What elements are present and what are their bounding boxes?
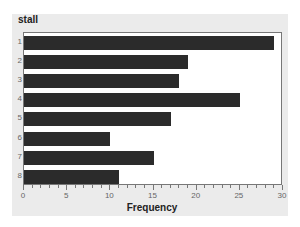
bar-1 [24,36,274,50]
bar-6 [24,132,110,146]
x-tick [204,185,205,188]
x-tick [256,185,257,188]
x-tick [170,185,171,188]
x-tick [135,185,136,188]
x-tick [109,185,110,190]
x-tick-label: 5 [64,191,68,200]
y-tick-label: 7 [14,152,22,161]
bar-7 [24,151,154,165]
x-tick [213,185,214,188]
x-tick-label: 30 [278,191,287,200]
x-tick-label: 20 [191,191,200,200]
x-tick [273,185,274,188]
x-tick-label: 25 [234,191,243,200]
x-tick-label: 10 [105,191,114,200]
bar-3 [24,74,179,88]
plot-area [23,32,282,185]
x-tick [282,185,283,190]
x-tick [161,185,162,188]
x-tick [239,185,240,190]
chart-title: stall [18,14,38,25]
y-tick-label: 5 [14,113,22,122]
x-tick [187,185,188,188]
bar-5 [24,112,171,126]
x-tick [23,185,24,190]
x-tick-label: 15 [148,191,157,200]
x-tick [75,185,76,188]
x-tick [127,185,128,188]
x-tick [40,185,41,188]
x-tick [265,185,266,188]
x-tick [144,185,145,188]
x-tick [58,185,59,188]
x-tick [92,185,93,188]
y-tick-label: 1 [14,37,22,46]
x-tick [230,185,231,188]
x-tick [32,185,33,188]
x-tick-label: 0 [21,191,25,200]
y-tick-label: 2 [14,56,22,65]
x-tick [247,185,248,188]
x-tick [118,185,119,188]
bar-8 [24,170,119,184]
x-tick [222,185,223,188]
y-tick-label: 4 [14,94,22,103]
y-tick-label: 3 [14,75,22,84]
x-tick [101,185,102,188]
x-tick [196,185,197,190]
x-tick [49,185,50,188]
x-tick [178,185,179,188]
x-tick [153,185,154,190]
y-tick-label: 6 [14,133,22,142]
bar-2 [24,55,188,69]
bar-4 [24,93,240,107]
x-tick [83,185,84,188]
x-tick [66,185,67,190]
y-tick-label: 8 [14,171,22,180]
x-axis-title: Frequency [127,202,178,213]
